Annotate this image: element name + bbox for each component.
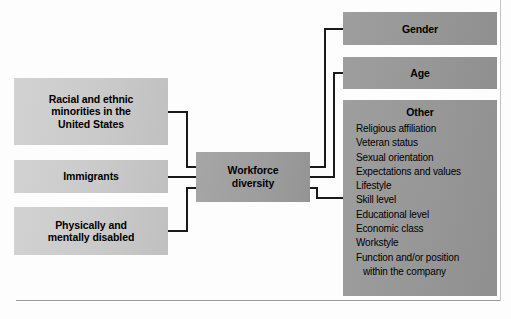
connector-center-to-gender — [310, 29, 343, 167]
output-box-other: Other Religious affiliation Veteran stat… — [343, 100, 497, 296]
connector-center-to-age — [310, 73, 343, 177]
other-items-list: Religious affiliation Veteran status Sex… — [343, 122, 497, 279]
other-list-item-continuation: within the company — [356, 265, 497, 279]
center-box-line-1: Workforce — [228, 164, 279, 177]
other-list-item: Skill level — [356, 193, 497, 207]
connector-disabled-to-center — [168, 188, 196, 231]
other-list-item: Educational level — [356, 208, 497, 222]
connector-center-to-other — [310, 188, 343, 198]
page-vertical-rule — [500, 0, 501, 301]
other-list-item: Religious affiliation — [356, 122, 497, 136]
diagram-canvas: Racial and ethnic minorities in the Unit… — [0, 0, 511, 319]
center-box-line-2: diversity — [232, 177, 274, 190]
center-box-workforce-diversity: Workforce diversity — [196, 152, 310, 202]
input-box-racial-and-ethnic-minorities: Racial and ethnic minorities in the Unit… — [14, 78, 168, 145]
input-box-line-1: Racial and ethnic — [49, 93, 134, 106]
other-list-item: Workstyle — [356, 236, 497, 250]
other-list-item: Expectations and values — [356, 165, 497, 179]
output-box-label: Other — [406, 106, 434, 118]
input-box-line-1: Immigrants — [63, 170, 119, 183]
output-box-gender: Gender — [343, 12, 497, 45]
output-box-label: Gender — [402, 23, 438, 35]
other-list-item: Sexual orientation — [356, 151, 497, 165]
other-list-item: Veteran status — [356, 136, 497, 150]
input-box-physically-and-mentally-disabled: Physically and mentally disabled — [14, 207, 168, 255]
output-box-label: Age — [410, 67, 430, 79]
other-list-item: Function and/or position — [356, 251, 497, 265]
page-horizontal-rule — [16, 300, 500, 301]
other-list-item: Lifestyle — [356, 179, 497, 193]
input-box-line-2: mentally disabled — [48, 231, 134, 244]
input-box-line-1: Physically and — [55, 219, 127, 232]
input-box-immigrants: Immigrants — [14, 160, 168, 193]
input-box-line-3: United States — [58, 118, 124, 131]
output-box-age: Age — [343, 57, 497, 89]
connector-racial-to-center — [168, 112, 196, 167]
other-list-item: Economic class — [356, 222, 497, 236]
input-box-line-2: minorities in the — [51, 105, 130, 118]
